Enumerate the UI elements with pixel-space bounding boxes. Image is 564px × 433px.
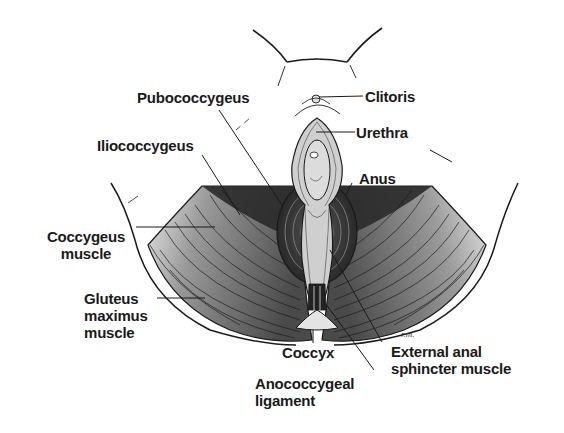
- label-coccygeus-line2: muscle: [34, 245, 138, 262]
- label-gluteus-maximus-muscle: Gluteus maximus muscle: [84, 290, 148, 341]
- leader-clitoris: [319, 96, 363, 97]
- anococcygeal-ligament-shape: [308, 284, 326, 310]
- label-anococcygeal-line2: ligament: [255, 392, 354, 409]
- label-gluteus-line2: maximus: [84, 307, 148, 324]
- clitoris-glans: [312, 95, 320, 103]
- label-urethra: Urethra: [356, 124, 408, 141]
- label-coccygeus-line1: Coccygeus: [34, 228, 138, 245]
- label-gluteus-line3: muscle: [84, 324, 148, 341]
- label-external-anal-line1: External anal: [391, 343, 511, 360]
- label-anus: Anus: [359, 170, 396, 187]
- vestibule: [304, 140, 330, 200]
- label-external-anal-line2: sphincter muscle: [391, 360, 511, 377]
- label-pubococcygeus: Pubococcygeus: [137, 89, 249, 106]
- label-gluteus-line1: Gluteus: [84, 290, 148, 307]
- label-anococcygeal-ligament: Anococcygeal ligament: [255, 375, 354, 409]
- artist-signature: r.m.: [401, 329, 415, 339]
- label-coccyx: Coccyx: [282, 344, 334, 361]
- label-anococcygeal-line1: Anococcygeal: [255, 375, 354, 392]
- body-contour-top: [236, 28, 452, 162]
- label-clitoris: Clitoris: [365, 88, 415, 105]
- label-coccygeus-muscle: Coccygeus muscle: [34, 228, 138, 262]
- label-iliococcygeus: Iliococcygeus: [97, 137, 194, 154]
- urethral-opening: [310, 152, 318, 158]
- label-external-anal-sphincter-muscle: External anal sphincter muscle: [391, 343, 511, 377]
- pelvic-floor-diagram: Clitoris Urethra Anus Pubococcygeus Ilio…: [0, 0, 564, 433]
